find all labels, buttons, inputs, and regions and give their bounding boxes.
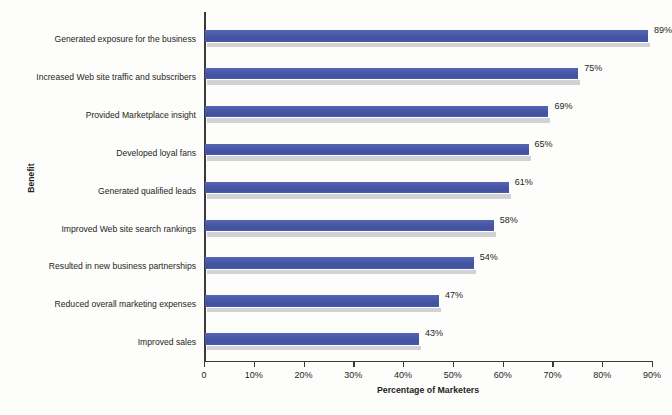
bar-row: Reduced overall marketing expenses47%	[0, 289, 670, 327]
bar-wrapper	[205, 144, 529, 163]
x-axis-tick	[204, 362, 205, 367]
bar-row: Generated exposure for the business89%	[0, 24, 670, 62]
bar-shadow	[207, 270, 476, 275]
bar	[205, 257, 474, 269]
bar	[205, 30, 648, 42]
bar	[205, 333, 419, 345]
bar-value-label: 69%	[554, 101, 572, 111]
x-axis-tick-label: 50%	[433, 370, 473, 380]
bar-row: Generated qualified leads61%	[0, 176, 670, 214]
category-label: Improved sales	[0, 337, 196, 348]
category-label: Increased Web site traffic and subscribe…	[0, 72, 196, 83]
x-axis-tick	[652, 362, 653, 367]
category-label: Provided Marketplace insight	[0, 110, 196, 121]
x-axis-tick	[602, 362, 603, 367]
bar-wrapper	[205, 220, 494, 239]
x-axis-tick-label: 0	[184, 370, 224, 380]
x-axis-tick-label: 40%	[383, 370, 423, 380]
bar-wrapper	[205, 68, 578, 87]
bar-row: Resulted in new business partnerships54%	[0, 251, 670, 289]
bar-wrapper	[205, 295, 439, 314]
bar-wrapper	[205, 182, 509, 201]
x-axis-tick	[503, 362, 504, 367]
x-axis-tick	[552, 362, 553, 367]
category-label: Generated qualified leads	[0, 186, 196, 197]
bar-value-label: 43%	[425, 328, 443, 338]
bar-shadow	[207, 194, 511, 199]
x-axis-tick-label: 30%	[333, 370, 373, 380]
bar-wrapper	[205, 30, 648, 49]
category-label: Resulted in new business partnerships	[0, 261, 196, 272]
x-axis-tick	[453, 362, 454, 367]
bar-row: Increased Web site traffic and subscribe…	[0, 62, 670, 100]
x-axis-tick	[403, 362, 404, 367]
bar-shadow	[207, 156, 531, 161]
x-axis-tick-label: 60%	[483, 370, 523, 380]
bar-shadow	[207, 80, 580, 85]
bar-value-label: 75%	[584, 63, 602, 73]
x-axis-tick-label: 80%	[582, 370, 622, 380]
bar	[205, 182, 509, 194]
bar-value-label: 47%	[445, 290, 463, 300]
bar-wrapper	[205, 106, 548, 125]
bar-shadow	[207, 346, 421, 351]
bar	[205, 68, 578, 80]
bar-value-label: 65%	[535, 139, 553, 149]
category-label: Reduced overall marketing expenses	[0, 299, 196, 310]
x-axis-tick	[254, 362, 255, 367]
x-axis-tick-label: 70%	[532, 370, 572, 380]
category-label: Generated exposure for the business	[0, 34, 196, 45]
bar-row: Provided Marketplace insight69%	[0, 100, 670, 138]
bar-shadow	[207, 232, 496, 237]
x-axis-title: Percentage of Marketers	[204, 385, 652, 395]
bar	[205, 220, 494, 232]
bar-row: Improved sales43%	[0, 327, 670, 365]
bar-value-label: 61%	[515, 177, 533, 187]
category-label: Improved Web site search rankings	[0, 224, 196, 235]
bar-value-label: 89%	[654, 25, 672, 35]
bar-value-label: 54%	[480, 252, 498, 262]
x-axis-tick	[353, 362, 354, 367]
bar-row: Developed loyal fans65%	[0, 138, 670, 176]
x-axis-tick	[304, 362, 305, 367]
x-axis-tick-label: 10%	[234, 370, 274, 380]
bar-shadow	[207, 308, 441, 313]
bar	[205, 106, 548, 118]
bar	[205, 295, 439, 307]
bar-wrapper	[205, 257, 474, 276]
bar-shadow	[207, 43, 650, 48]
bar-shadow	[207, 118, 550, 123]
x-axis-tick-label: 20%	[284, 370, 324, 380]
bar-value-label: 58%	[500, 215, 518, 225]
bar	[205, 144, 529, 156]
x-axis-tick-label: 90%	[632, 370, 672, 380]
category-label: Developed loyal fans	[0, 148, 196, 159]
bar-wrapper	[205, 333, 419, 352]
bar-row: Improved Web site search rankings58%	[0, 214, 670, 252]
